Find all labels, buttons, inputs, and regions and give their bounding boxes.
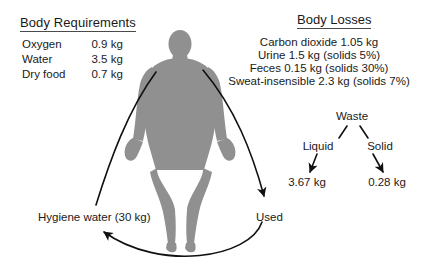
waste-node-label: Waste xyxy=(322,110,382,122)
liquid-value-label: 3.67 kg xyxy=(272,176,342,188)
list-item: Feces 0.15 kg (solids 30%) xyxy=(206,62,432,75)
solid-node-label: Solid xyxy=(352,140,408,152)
body-mass-balance-diagram: Body Requirements Oxygen 0.9 kg Water 3.… xyxy=(0,0,432,280)
list-item: Urine 1.5 kg (solids 5%) xyxy=(206,49,432,62)
intake-arc xyxy=(96,72,156,205)
list-item: Carbon dioxide 1.05 kg xyxy=(206,36,432,49)
waste-to-liquid-line xyxy=(339,126,347,138)
body-losses-list: Carbon dioxide 1.05 kg Urine 1.5 kg (sol… xyxy=(0,36,432,88)
used-label: Used xyxy=(256,211,283,223)
liquid-node-label: Liquid xyxy=(290,140,346,152)
recycle-arc xyxy=(104,222,262,256)
output-arc xyxy=(203,70,264,196)
body-losses-title: Body Losses xyxy=(297,12,371,29)
body-requirements-title: Body Requirements xyxy=(20,15,136,32)
solid-to-value-arrow xyxy=(373,154,383,172)
solid-value-label: 0.28 kg xyxy=(352,176,422,188)
list-item: Sweat-insensible 2.3 kg (solids 7%) xyxy=(206,75,432,88)
liquid-to-value-arrow xyxy=(310,154,317,172)
waste-to-solid-line xyxy=(360,126,368,138)
hygiene-water-label: Hygiene water (30 kg) xyxy=(38,211,151,223)
